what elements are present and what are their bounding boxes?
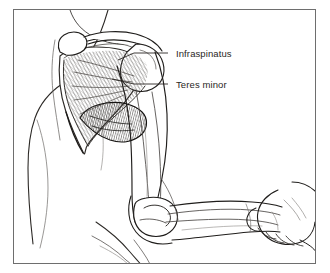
label-text-infraspinatus: Infraspinatus [176,48,232,59]
anatomy-illustration: Infraspinatus Teres minor [0,0,330,273]
label-text-teres-minor: Teres minor [176,79,227,90]
anatomy-figure: Infraspinatus Teres minor [0,0,330,273]
